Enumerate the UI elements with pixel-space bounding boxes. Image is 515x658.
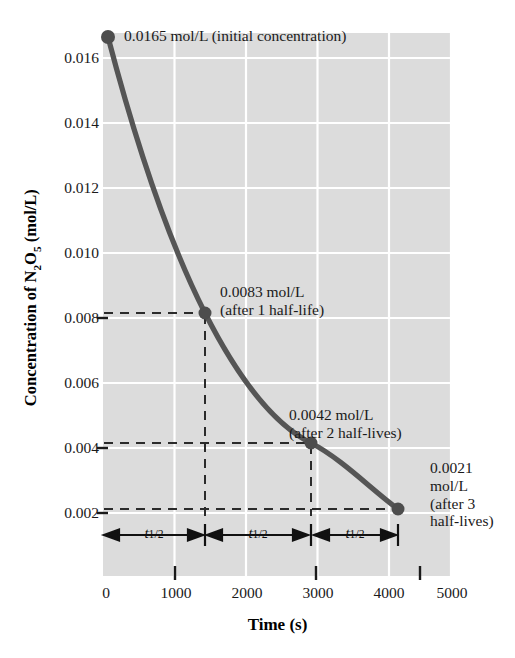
y-tick-label: 0.006 xyxy=(37,375,99,391)
x-tick-label: 5000 xyxy=(437,585,468,601)
annotation-line: 0.0083 mol/L xyxy=(220,283,324,301)
x-tick-label: 2000 xyxy=(232,585,263,601)
halflife-subscript: 1/2 xyxy=(253,528,268,541)
y-axis-title-text-o: O xyxy=(21,252,40,265)
y-axis-title-sub-2: 2 xyxy=(31,265,43,271)
y-axis-title: Concentration of N2O5 (mol/L) xyxy=(21,98,42,498)
annotation-half-life-2: 0.0042 mol/L (after 2 half-lives) xyxy=(289,406,402,442)
halflife-label-2: t1/2 xyxy=(248,525,267,542)
y-tick-label: 0.010 xyxy=(37,245,99,261)
x-tick-label: 0 xyxy=(102,585,110,601)
x-axis-ticks: 0 1000 2000 3000 4000 5000 xyxy=(0,585,515,609)
y-tick-label: 0.008 xyxy=(37,310,99,326)
y-axis-title-sub-5: 5 xyxy=(31,246,43,252)
x-axis-title: Time (s) xyxy=(103,615,452,635)
half-life-decay-chart: 0.002 0.004 0.006 0.008 0.010 0.012 0.01… xyxy=(0,0,515,658)
annotation-line: 0.0042 mol/L xyxy=(289,406,402,424)
x-tick-label: 4000 xyxy=(374,585,405,601)
annotation-line: half-lives) xyxy=(430,512,515,530)
halflife-subscript: 1/2 xyxy=(350,528,365,541)
y-tick-label: 0.014 xyxy=(37,115,99,131)
y-axis-title-units: (mol/L) xyxy=(21,189,40,246)
annotation-half-life-3: 0.0021 mol/L (after 3 half-lives) xyxy=(430,459,515,530)
y-axis-ticks: 0.002 0.004 0.006 0.008 0.010 0.012 0.01… xyxy=(34,0,99,658)
y-tick-label: 0.004 xyxy=(37,440,99,456)
halflife-label-3: t1/2 xyxy=(345,525,364,542)
annotation-line: 0.0021 xyxy=(430,459,515,477)
y-tick-label: 0.012 xyxy=(37,180,99,196)
annotation-line: (after 3 xyxy=(430,495,515,513)
annotation-half-life-1: 0.0083 mol/L (after 1 half-life) xyxy=(220,283,324,319)
annotation-line: (after 1 half-life) xyxy=(220,301,324,319)
y-axis-title-text: Concentration of N xyxy=(21,271,40,407)
annotation-line: mol/L xyxy=(430,477,515,495)
annotation-line: 0.0165 mol/L (initial concentration) xyxy=(124,27,346,45)
annotation-line: (after 2 half-lives) xyxy=(289,424,402,442)
annotation-initial-concentration: 0.0165 mol/L (initial concentration) xyxy=(124,27,346,45)
y-tick-label: 0.002 xyxy=(37,505,99,521)
halflife-subscript: 1/2 xyxy=(149,528,164,541)
halflife-label-1: t1/2 xyxy=(144,525,163,542)
y-tick-label: 0.016 xyxy=(37,50,99,66)
x-tick-label: 3000 xyxy=(303,585,334,601)
x-tick-label: 1000 xyxy=(161,585,192,601)
